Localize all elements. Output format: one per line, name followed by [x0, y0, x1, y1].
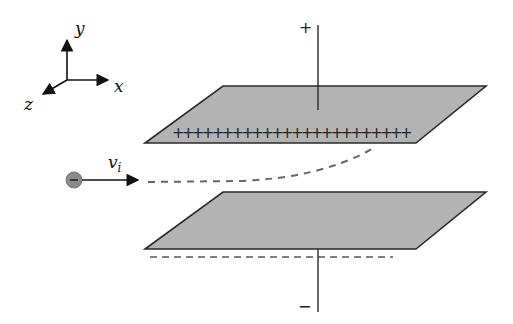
bottom-plate: [145, 192, 486, 249]
z-axis-arrow: [43, 80, 67, 94]
positive-terminal-label: +: [299, 18, 312, 37]
capacitor-diagram: y x z + ++++++++++++++++++++++++ vi −: [0, 0, 513, 324]
x-axis-label: x: [114, 76, 124, 96]
z-axis-label: z: [23, 94, 34, 114]
coordinate-axes: y x z: [23, 18, 124, 114]
electron: vi: [66, 152, 138, 188]
positive-charges: ++++++++++++++++++++++++: [172, 124, 412, 142]
negative-terminal-label: −: [298, 297, 311, 316]
velocity-label: vi: [108, 152, 122, 175]
y-axis-label: y: [74, 18, 85, 38]
electron-trajectory: [148, 149, 372, 182]
